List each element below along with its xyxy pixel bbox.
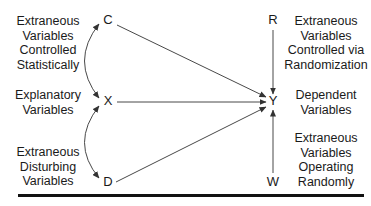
label-line: Disturbing <box>8 160 88 175</box>
label-controlled-statistically: Extraneous Variables Controlled Statisti… <box>8 14 88 72</box>
label-randomization: Extraneous Variables Controlled via Rand… <box>281 14 371 72</box>
bottom-rule <box>18 194 364 197</box>
node-x: X <box>101 94 115 108</box>
label-line: Randomization <box>281 58 371 73</box>
label-line: Explanatory <box>8 88 88 103</box>
label-line: Controlled via <box>281 43 371 58</box>
node-c: C <box>101 13 115 27</box>
label-line: Randomly <box>281 175 371 190</box>
label-line: Extraneous <box>281 14 371 29</box>
label-line: Controlled <box>8 43 88 58</box>
label-line: Variables <box>8 103 88 118</box>
label-operating-randomly: Extraneous Variables Operating Randomly <box>281 131 371 189</box>
label-line: Statistically <box>8 58 88 73</box>
causal-diagram: C X D R Y W Extraneous Variables Control… <box>0 0 371 206</box>
node-w: W <box>266 175 280 189</box>
label-explanatory: Explanatory Variables <box>8 88 88 117</box>
label-line: Variables <box>8 29 88 44</box>
label-line: Variables <box>8 174 88 189</box>
label-line: Variables <box>281 29 371 44</box>
node-y: Y <box>266 94 280 108</box>
label-line: Operating <box>281 160 371 175</box>
label-line: Extraneous <box>8 14 88 29</box>
label-dependent: Dependent Variables <box>281 88 371 117</box>
label-line: Dependent <box>281 88 371 103</box>
label-line: Extraneous <box>8 145 88 160</box>
node-r: R <box>266 13 280 27</box>
label-line: Variables <box>281 103 371 118</box>
arrow-c-to-y <box>117 25 266 97</box>
arrow-d-to-y <box>116 107 266 182</box>
label-line: Variables <box>281 146 371 161</box>
node-d: D <box>101 175 115 189</box>
label-disturbing: Extraneous Disturbing Variables <box>8 145 88 189</box>
label-line: Extraneous <box>281 131 371 146</box>
